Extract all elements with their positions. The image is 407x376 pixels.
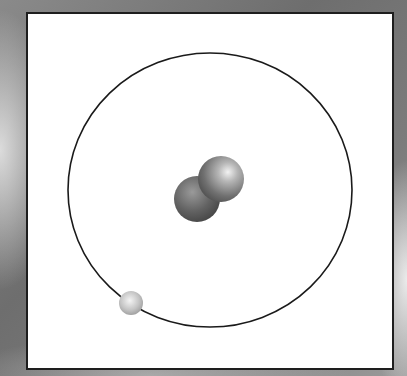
- nucleus: [174, 156, 244, 222]
- electron-sphere: [119, 291, 143, 315]
- proton-sphere: [198, 156, 244, 202]
- atom-diagram: [0, 0, 407, 376]
